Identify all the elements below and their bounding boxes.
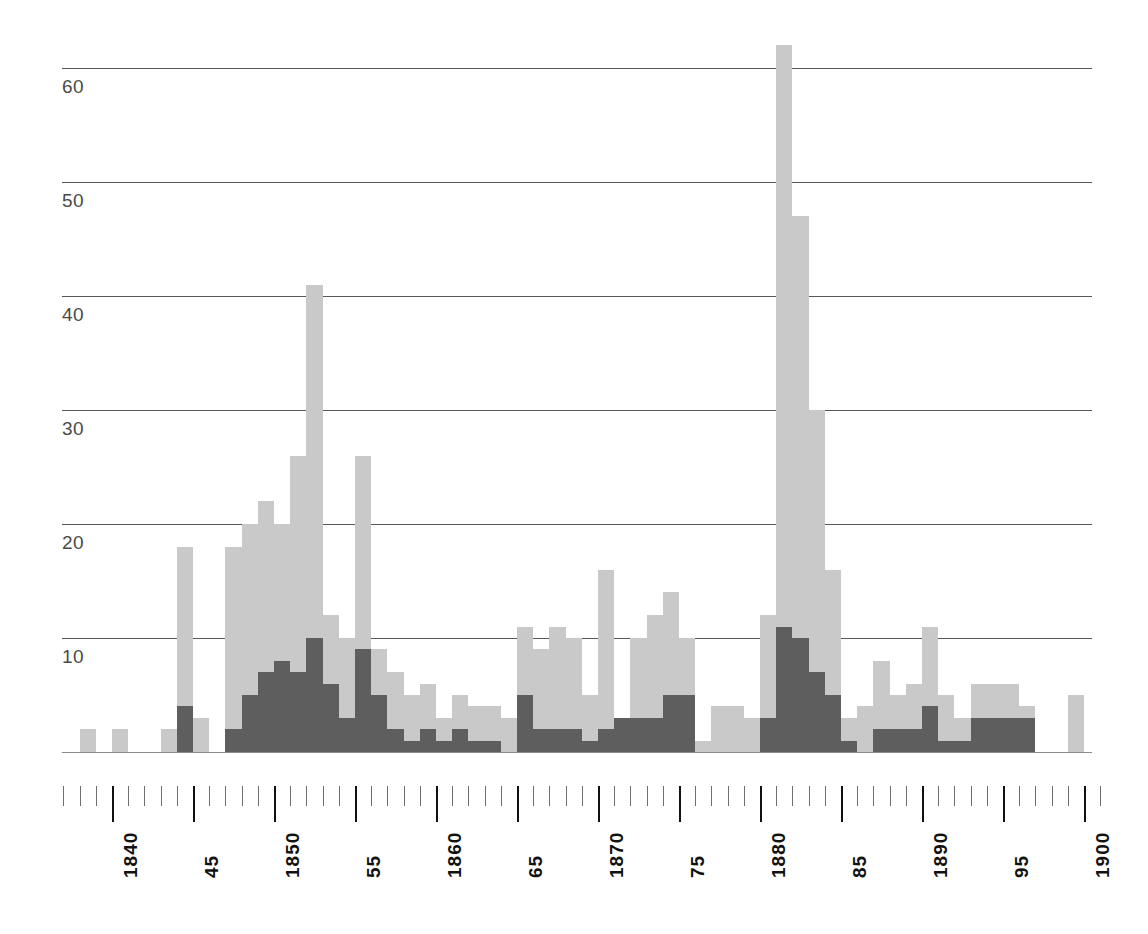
x-axis-minor-tick [533,786,534,806]
bar-1845 [193,718,209,752]
x-axis-minor-tick [452,786,453,806]
x-axis-tick-label-1850: 1850 [282,832,304,878]
y-axis-tick-label: 40 [62,304,84,326]
bar-1850 [274,524,290,752]
bar-1886 [857,706,873,752]
bar-segment-dark [549,729,565,752]
x-axis-minor-tick [663,786,664,806]
bar-segment-dark [890,729,906,752]
bar-1889 [906,684,922,752]
bar-1885 [841,718,857,752]
x-axis-tick-label-1875: 75 [687,855,709,878]
bar-segment-light [922,627,938,707]
bar-segment-light [825,570,841,695]
bar-1877 [711,706,727,752]
bar-1854 [339,638,355,752]
bar-segment-dark [1003,718,1019,752]
x-axis-major-tick-1845 [193,786,195,822]
bar-segment-light [663,592,679,695]
bar-1866 [533,649,549,752]
bar-segment-light [744,718,760,752]
x-axis-minor-tick [144,786,145,806]
y-axis-tick-label: 30 [62,418,84,440]
x-axis-major-tick-1880 [760,786,762,822]
x-axis-minor-tick [80,786,81,806]
x-axis-major-tick-1885 [841,786,843,822]
x-axis-minor-tick [614,786,615,806]
y-axis-tick-label: 50 [62,190,84,212]
x-axis-minor-tick [177,786,178,806]
bar-1870 [598,570,614,752]
bar-1840 [112,729,128,752]
bar-segment-dark [1019,718,1035,752]
bar-segment-light [501,718,517,752]
x-axis-minor-tick [1019,786,1020,806]
bar-segment-light [420,684,436,730]
bar-segment-dark [420,729,436,752]
bar-1879 [744,718,760,752]
bar-segment-light [485,706,501,740]
bar-segment-dark [387,729,403,752]
bar-segment-light [306,285,322,638]
bar-1862 [468,706,484,752]
bar-segment-dark [873,729,889,752]
chart-plot-area: 102030405060 [0,0,1148,934]
x-axis-tick-label-1840: 1840 [120,832,142,878]
bar-segment-dark [906,729,922,752]
bar-segment-dark [598,729,614,752]
bar-1888 [890,695,906,752]
bar-1874 [663,592,679,752]
x-axis-major-tick-1900 [1084,786,1086,822]
bar-1860 [436,718,452,752]
bar-segment-dark [258,672,274,752]
x-axis-minor-tick [96,786,97,806]
bar-segment-dark [841,741,857,752]
bar-segment-dark [225,729,241,752]
bar-segment-dark [404,741,420,752]
x-axis-tick-label-1900: 1900 [1092,832,1114,878]
x-axis-minor-tick [404,786,405,806]
bar-1883 [809,410,825,752]
bar-segment-light [225,547,241,729]
bar-segment-light [404,695,420,741]
x-axis-minor-tick [566,786,567,806]
x-axis-minor-tick [258,786,259,806]
gridline-20 [62,524,1092,525]
bar-segment-light [792,216,808,638]
x-axis-tick-label-1865: 65 [525,855,547,878]
x-axis-minor-tick [161,786,162,806]
x-axis-minor-tick [825,786,826,806]
bar-segment-dark [517,695,533,752]
bar-segment-light [177,547,193,707]
bar-1859 [420,684,436,752]
x-axis-minor-tick [711,786,712,806]
bar-1878 [728,706,744,752]
x-axis-minor-tick [323,786,324,806]
bar-1855 [355,456,371,752]
bar-segment-light [242,524,258,695]
bar-segment-light [436,718,452,741]
x-axis-minor-tick [63,786,64,806]
gridline-30 [62,410,1092,411]
bar-segment-light [582,695,598,741]
axis-baseline [62,752,1092,753]
x-axis-tick-label-1870: 1870 [606,832,628,878]
x-axis-major-tick-1875 [679,786,681,822]
x-axis-minor-tick [954,786,955,806]
bar-segment-dark [614,718,630,752]
bar-segment-light [954,718,970,741]
x-axis-major-tick-1840 [112,786,114,822]
bar-segment-dark [938,741,954,752]
bar-segment-light [452,695,468,729]
x-axis-minor-tick [647,786,648,806]
bar-1876 [695,741,711,752]
bar-segment-dark [663,695,679,752]
x-axis-minor-tick [695,786,696,806]
bar-segment-light [549,627,565,730]
bar-1892 [954,718,970,752]
x-axis-minor-tick [242,786,243,806]
bar-1847 [225,547,241,752]
x-axis-major-tick-1850 [274,786,276,822]
bar-segment-light [938,695,954,741]
bar-1857 [387,672,403,752]
